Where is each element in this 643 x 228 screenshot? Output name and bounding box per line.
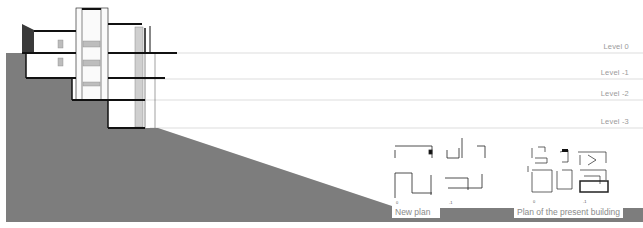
level-label-minus-1: Level -1: [601, 68, 629, 77]
level-label-0: Level 0: [603, 42, 629, 51]
svg-text:-1: -1: [583, 199, 587, 204]
new-plan-drawing: [395, 138, 485, 198]
level-label-minus-2: Level -2: [601, 89, 629, 98]
section-drawing: 0-1 0-1: [0, 0, 643, 228]
plan-markers: 0-1 0-1: [396, 199, 587, 205]
present-plan-drawing: [528, 147, 608, 192]
svg-text:0: 0: [396, 200, 399, 205]
svg-text:0: 0: [533, 199, 536, 204]
svg-text:-1: -1: [449, 200, 453, 205]
new-plan-caption: New plan: [392, 207, 440, 218]
level-label-minus-3: Level -3: [601, 117, 629, 126]
present-plan-caption: Plan of the present building: [514, 207, 623, 218]
level-lines: [140, 53, 643, 128]
